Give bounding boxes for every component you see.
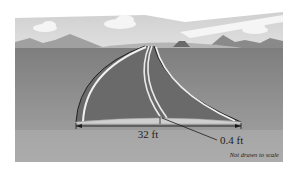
road-illustration: 32 ft 0.4 ft Not drawn to scale (15, 10, 283, 162)
width-label: 32 ft (138, 128, 158, 140)
road-diagram: 32 ft 0.4 ft Not drawn to scale (15, 10, 283, 162)
crown-height-label: 0.4 ft (220, 134, 243, 146)
scale-note: Not drawn to scale (229, 151, 279, 158)
